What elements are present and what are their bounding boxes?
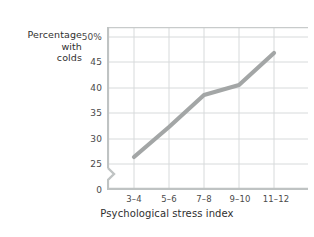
x-axis-tick-labels: 3–4 5–6 7–8 9–10 11–12	[107, 194, 308, 208]
y-tick-label-35: 35	[60, 108, 102, 118]
chart-figure: Percentage with colds 50% 45 40 35 30 25…	[0, 0, 314, 237]
x-axis-title-text: Psychological stress index	[100, 208, 233, 219]
x-axis-title: Psychological stress index	[0, 208, 314, 219]
horizontal-gridlines	[107, 37, 308, 164]
y-tick-label-50: 50%	[60, 32, 102, 42]
plot-area	[107, 27, 308, 190]
y-tick-label-40: 40	[60, 83, 102, 93]
x-tick-label-11-12: 11–12	[263, 194, 289, 204]
y-axis-tick-labels: 50% 45 40 35 30 25 0	[60, 0, 102, 237]
y-axis-break-mark	[108, 168, 114, 190]
y-tick-label-30: 30	[60, 134, 102, 144]
x-tick-label-9-10: 9–10	[230, 194, 251, 204]
y-tick-label-zero: 0	[60, 185, 102, 195]
y-tick-label-25: 25	[60, 159, 102, 169]
x-tick-label-7-8: 7–8	[196, 194, 211, 204]
x-tick-label-5-6: 5–6	[161, 194, 176, 204]
x-tick-label-3-4: 3–4	[126, 194, 141, 204]
vertical-gridlines	[134, 27, 274, 190]
y-tick-label-45: 45	[60, 57, 102, 67]
